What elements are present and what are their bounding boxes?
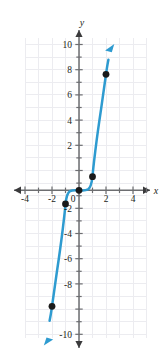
y-tick-label-neg2: -2 (64, 204, 72, 214)
y-tick-label-neg6: -6 (64, 254, 72, 264)
x-tick-label-4: 4 (131, 194, 136, 204)
plotted-point (89, 173, 96, 180)
y-axis-label: y (79, 17, 85, 28)
y-axis-up-arrow-icon (75, 30, 82, 37)
plotted-point (103, 71, 110, 78)
origin-label: 0 (71, 194, 76, 204)
y-tick-label-8: 8 (67, 65, 72, 75)
y-tick-label-2: 2 (67, 141, 72, 151)
plotted-point (49, 303, 56, 310)
y-tick-label-4: 4 (67, 116, 72, 126)
x-tick-label-neg4: -4 (21, 194, 29, 204)
x-tick-label-neg2: -2 (48, 194, 56, 204)
y-tick-label-6: 6 (67, 90, 72, 100)
graph-figure: -4 -2 2 4 10 8 6 4 2 -2 -4 -6 -8 -10 0 x… (0, 0, 165, 362)
coordinate-plane: -4 -2 2 4 10 8 6 4 2 -2 -4 -6 -8 -10 0 x… (0, 0, 165, 362)
y-tick-label-10: 10 (63, 40, 73, 50)
y-axis-down-arrow-icon (75, 341, 82, 348)
x-axis-label: x (153, 185, 159, 196)
y-tick-label-neg8: -8 (64, 280, 72, 290)
curve-down-arrow-icon (44, 337, 53, 345)
y-tick-label-neg10: -10 (59, 330, 72, 340)
y-tick-label-neg4: -4 (64, 229, 72, 239)
grid-lines (25, 38, 147, 338)
x-tick-label-2: 2 (104, 194, 109, 204)
plotted-point (76, 187, 83, 194)
x-axis-left-arrow-icon (14, 187, 21, 194)
